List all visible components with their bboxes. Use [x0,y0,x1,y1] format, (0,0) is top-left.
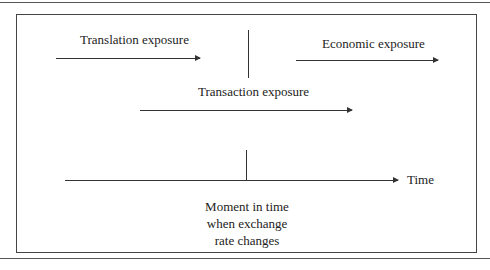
moment-caption-line-2: when exchange [187,215,307,232]
moment-caption-line-1: Moment in time [187,198,307,215]
translation-exposure-label: Translation exposure [80,32,189,48]
upper-divider-line [248,30,249,78]
top-rule [0,2,490,3]
time-axis-label: Time [407,172,434,188]
economic-exposure-arrow [296,60,438,61]
exchange-rate-change-marker [246,150,247,180]
moment-caption-line-3: rate changes [187,232,307,249]
economic-exposure-label: Economic exposure [322,36,425,52]
translation-exposure-arrow [56,58,200,59]
transaction-exposure-label: Transaction exposure [198,84,309,100]
bottom-rule [0,258,490,259]
moment-in-time-caption: Moment in time when exchange rate change… [187,198,307,249]
time-axis-arrow [65,180,398,181]
transaction-exposure-arrow [140,110,352,111]
